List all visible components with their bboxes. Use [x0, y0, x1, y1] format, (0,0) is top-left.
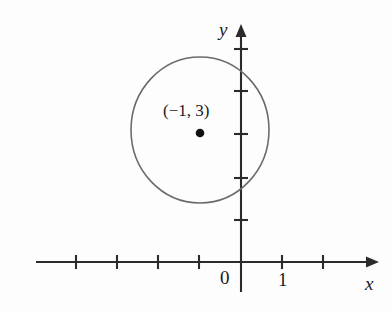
center-point-marker [196, 129, 205, 138]
x-axis-label: x [365, 274, 373, 293]
y-axis [236, 24, 247, 292]
origin-label: 0 [220, 268, 230, 287]
y-axis-arrowhead [236, 24, 247, 37]
x-axis-arrowhead [366, 257, 379, 268]
plot-canvas [0, 0, 391, 311]
center-point-label: (−1, 3) [163, 102, 209, 119]
coordinate-plane-figure: y x 0 1 (−1, 3) [0, 0, 391, 311]
x-axis [36, 257, 379, 268]
y-axis-label: y [219, 20, 227, 39]
x-tick-label-1: 1 [278, 270, 288, 289]
